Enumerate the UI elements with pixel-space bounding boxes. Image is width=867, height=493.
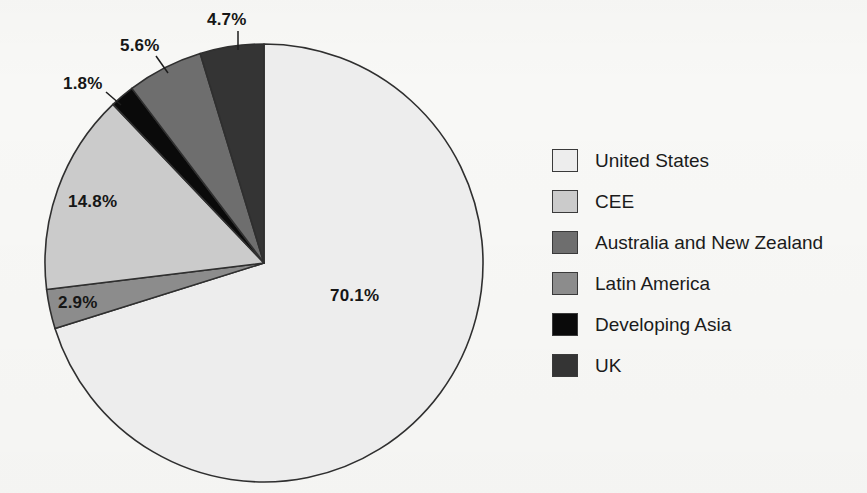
pie-value-label-united-states: 70.1% bbox=[330, 286, 379, 306]
legend-item-united-states[interactable]: United States bbox=[552, 140, 862, 181]
legend-label-cee: CEE bbox=[595, 192, 634, 211]
legend-label-united-states: United States bbox=[595, 151, 709, 170]
pie-value-label-cee: 14.8% bbox=[68, 192, 117, 212]
legend-item-developing-asia[interactable]: Developing Asia bbox=[552, 304, 862, 345]
legend-swatch-uk bbox=[552, 354, 578, 377]
pie-chart-area: 70.1%14.8%2.9%1.8%5.6%4.7% bbox=[0, 0, 540, 493]
pie-value-label-developing-asia: 1.8% bbox=[63, 74, 103, 94]
pie-value-label-uk: 4.7% bbox=[207, 10, 247, 30]
pie-value-label-latin-america: 2.9% bbox=[58, 293, 98, 313]
legend-swatch-cee bbox=[552, 190, 578, 213]
legend-swatch-australia-and-new-zealand bbox=[552, 231, 578, 254]
legend-swatch-developing-asia bbox=[552, 313, 578, 336]
legend-label-australia-and-new-zealand: Australia and New Zealand bbox=[595, 233, 823, 252]
pie-value-label-australia-new-zealand: 5.6% bbox=[120, 36, 160, 56]
chart-legend: United StatesCEEAustralia and New Zealan… bbox=[552, 140, 862, 386]
legend-swatch-latin-america bbox=[552, 272, 578, 295]
legend-item-australia-and-new-zealand[interactable]: Australia and New Zealand bbox=[552, 222, 862, 263]
legend-label-developing-asia: Developing Asia bbox=[595, 315, 731, 334]
legend-label-uk: UK bbox=[595, 356, 621, 375]
legend-label-latin-america: Latin America bbox=[595, 274, 710, 293]
legend-swatch-united-states bbox=[552, 149, 578, 172]
pie-slices-group bbox=[45, 44, 483, 482]
legend-item-uk[interactable]: UK bbox=[552, 345, 862, 386]
legend-item-latin-america[interactable]: Latin America bbox=[552, 263, 862, 304]
legend-item-cee[interactable]: CEE bbox=[552, 181, 862, 222]
